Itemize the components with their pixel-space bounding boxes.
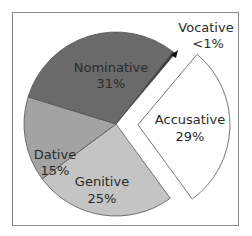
value-genitive: 25%: [88, 191, 117, 206]
label-nominative: Nominative: [74, 60, 149, 75]
value-dative: 15%: [41, 163, 70, 178]
value-nominative: 31%: [97, 76, 126, 91]
value-accusative: 29%: [176, 129, 205, 144]
label-genitive: Genitive: [75, 174, 129, 189]
value-vocative: <1%: [192, 36, 224, 51]
label-vocative: Vocative: [178, 20, 233, 35]
pie-chart: Nominative 31% Dative 15% Genitive 25% A…: [0, 0, 252, 236]
label-accusative: Accusative: [155, 112, 225, 127]
label-dative: Dative: [34, 147, 76, 162]
